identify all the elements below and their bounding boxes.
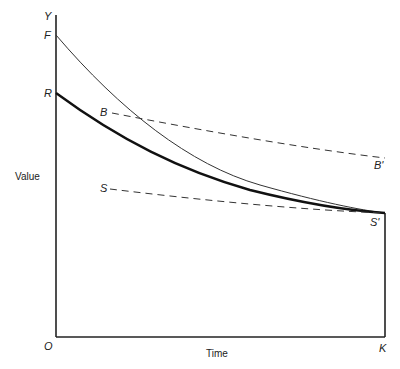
dashed-b [112, 113, 385, 158]
label-b: B [100, 106, 107, 118]
label-b-prime: B' [374, 159, 383, 171]
x-axis-label: Time [206, 348, 228, 359]
label-s: S [100, 182, 107, 194]
y-axis-label: Value [15, 171, 40, 182]
label-y: Y [44, 10, 51, 22]
label-k: K [379, 342, 386, 354]
label-f: F [44, 29, 51, 41]
label-r: R [44, 87, 52, 99]
diagram [0, 0, 400, 369]
label-o: O [44, 340, 53, 352]
label-s-prime: S' [370, 216, 379, 228]
